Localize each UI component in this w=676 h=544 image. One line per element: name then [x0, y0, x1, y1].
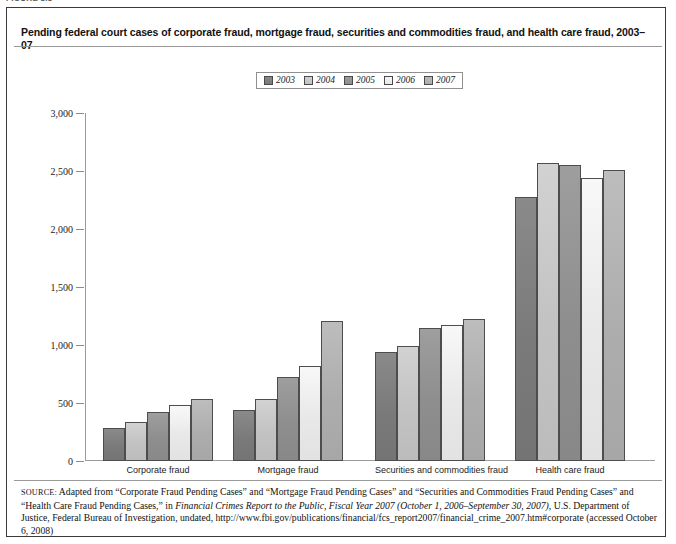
bar-2006-securities-and-commodities-fraud: [441, 325, 463, 461]
chart-legend: 20032004200520062007: [256, 72, 463, 89]
legend-item-2007: 2007: [424, 76, 455, 85]
title-divider: [14, 46, 662, 47]
y-axis-tick: [76, 345, 84, 346]
bar-2006-corporate-fraud: [169, 405, 191, 461]
bar-2005-corporate-fraud: [147, 412, 169, 461]
legend-item-2003: 2003: [264, 76, 295, 85]
bar-groups: Corporate fraudMortgage fraudSecurities …: [85, 113, 648, 461]
plot-area: 3,0002,5002,0001,5001,0005000 Corporate …: [85, 113, 648, 461]
y-axis-tick-label: 3,000: [51, 108, 74, 119]
bar-2004-mortgage-fraud: [255, 399, 277, 461]
legend-label: 2006: [396, 76, 415, 85]
legend-label: 2007: [436, 76, 455, 85]
x-axis-category-label: Securities and commodities fraud: [375, 465, 485, 475]
legend-swatch-icon: [304, 76, 313, 85]
figure-container: Pending federal court cases of corporate…: [6, 7, 666, 537]
legend-item-2004: 2004: [304, 76, 335, 85]
bar-group-mortgage-fraud: Mortgage fraud: [233, 113, 343, 461]
legend-label: 2004: [316, 76, 335, 85]
bar-2004-securities-and-commodities-fraud: [397, 346, 419, 461]
legend-swatch-icon: [344, 76, 353, 85]
y-axis-tick-label: 500: [58, 398, 73, 409]
source-label: SOURCE:: [21, 488, 57, 497]
bar-2004-corporate-fraud: [125, 422, 147, 461]
source-text-italic: Financial Crimes Report to the Public, F…: [175, 500, 551, 511]
y-axis-tick: [76, 171, 84, 172]
bar-2007-securities-and-commodities-fraud: [463, 319, 485, 461]
bar-2005-health-care-fraud: [559, 165, 581, 461]
legend-swatch-icon: [384, 76, 393, 85]
y-axis-tick-label: 2,500: [51, 166, 74, 177]
y-axis-tick-label: 2,000: [51, 224, 74, 235]
page-title: Pending federal court cases of corporate…: [21, 26, 653, 52]
bar-2007-mortgage-fraud: [321, 321, 343, 461]
bar-group-corporate-fraud: Corporate fraud: [103, 113, 213, 461]
y-axis-tick-label: 0: [68, 456, 73, 467]
legend-item-2005: 2005: [344, 76, 375, 85]
bar-group-health-care-fraud: Health care fraud: [515, 113, 625, 461]
y-axis-tick: [76, 287, 84, 288]
y-axis-tick: [76, 113, 84, 114]
bar-2005-securities-and-commodities-fraud: [419, 328, 441, 461]
bar-2007-corporate-fraud: [191, 399, 213, 461]
legend-item-2006: 2006: [384, 76, 415, 85]
legend-label: 2003: [276, 76, 295, 85]
bar-2003-securities-and-commodities-fraud: [375, 352, 397, 461]
x-axis-category-label: Health care fraud: [515, 465, 625, 475]
bar-2004-health-care-fraud: [537, 163, 559, 461]
bar-2007-health-care-fraud: [603, 170, 625, 461]
x-axis-category-label: Corporate fraud: [103, 465, 213, 475]
legend-swatch-icon: [424, 76, 433, 85]
legend-label: 2005: [356, 76, 375, 85]
y-axis-tick-label: 1,500: [51, 282, 74, 293]
bar-2006-mortgage-fraud: [299, 366, 321, 461]
legend-swatch-icon: [264, 76, 273, 85]
source-divider: [14, 480, 662, 481]
y-axis-tick: [76, 229, 84, 230]
x-axis-category-label: Mortgage fraud: [233, 465, 343, 475]
source-note: SOURCE: Adapted from “Corporate Fraud Pe…: [21, 486, 659, 537]
y-axis-tick: [76, 461, 84, 462]
bar-2005-mortgage-fraud: [277, 377, 299, 461]
bar-group-securities-and-commodities-fraud: Securities and commodities fraud: [375, 113, 485, 461]
bar-2003-corporate-fraud: [103, 428, 125, 461]
bar-2006-health-care-fraud: [581, 178, 603, 461]
y-axis-tick-label: 1,000: [51, 340, 74, 351]
bar-2003-health-care-fraud: [515, 197, 537, 461]
bar-2003-mortgage-fraud: [233, 410, 255, 461]
y-axis-tick: [76, 403, 84, 404]
figure-label: FIGURE 8.3: [6, 0, 76, 4]
